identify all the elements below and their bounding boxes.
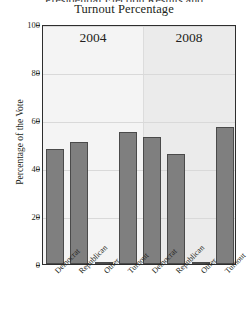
y-tick-mark bbox=[36, 25, 40, 26]
plot-area: 2004 2008 bbox=[42, 25, 236, 265]
gridline bbox=[43, 26, 235, 27]
y-tick-mark bbox=[36, 265, 40, 266]
y-tick-label: 60 bbox=[0, 117, 40, 126]
y-tick-label: 40 bbox=[0, 165, 40, 174]
y-axis: Percentage of the Vote 020406080100 bbox=[0, 25, 40, 265]
chart-figure: Presidential Election Results and Turnou… bbox=[0, 0, 248, 309]
y-tick-label: 0 bbox=[0, 261, 40, 270]
gridline bbox=[43, 74, 235, 75]
y-tick-mark bbox=[36, 217, 40, 218]
panel-label-2008: 2008 bbox=[143, 30, 235, 46]
y-tick-label: 100 bbox=[0, 21, 40, 30]
bar bbox=[143, 137, 161, 264]
bar bbox=[119, 132, 137, 264]
gridline bbox=[43, 122, 235, 123]
y-tick-mark bbox=[36, 169, 40, 170]
y-tick-mark bbox=[36, 73, 40, 74]
y-tick-label: 80 bbox=[0, 69, 40, 78]
chart-title: Turnout Percentage bbox=[0, 2, 248, 17]
bar bbox=[46, 149, 64, 264]
y-tick-label: 20 bbox=[0, 213, 40, 222]
bar bbox=[216, 127, 234, 264]
panel-label-2004: 2004 bbox=[43, 30, 143, 46]
y-axis-label: Percentage of the Vote bbox=[15, 52, 25, 232]
bar bbox=[70, 142, 88, 264]
y-tick-mark bbox=[36, 121, 40, 122]
